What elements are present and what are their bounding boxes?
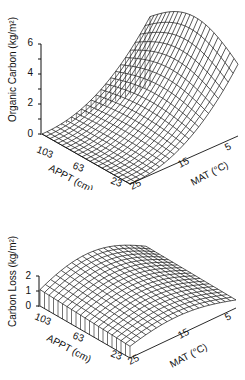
y-tick-label: 5 <box>223 310 233 323</box>
y-tick-label: 5 <box>223 140 233 153</box>
x-tick-label: 103 <box>35 144 55 161</box>
z-axis-label: Organic Carbon (kg/m²) <box>7 17 18 122</box>
carbon-loss-surface <box>40 245 236 358</box>
organic-carbon-plot-svg: 6 4 2 0 Organic Carbon (kg/m²) 103 63 23… <box>0 0 245 190</box>
x-tick-label: 103 <box>33 311 53 328</box>
x-axis-label: APPT (cm) <box>47 162 95 190</box>
z-tick-label: 0 <box>25 300 31 311</box>
x-axis-label: APPT (cm) <box>45 332 93 365</box>
carbon-loss-surface-plot: 2 1 0 Carbon Loss (kg/m²) 103 63 23 APPT… <box>0 190 245 380</box>
y-tick-label: 15 <box>176 326 191 341</box>
organic-carbon-surface <box>42 12 238 184</box>
x-tick-label: 63 <box>71 160 86 175</box>
z-axis-label: Carbon Loss (kg/m²) <box>7 236 18 327</box>
y-tick-label: 15 <box>176 155 191 170</box>
x-tick-label: 23 <box>109 175 124 190</box>
z-tick-label: 6 <box>27 37 33 48</box>
z-tick-label: 2 <box>27 97 33 108</box>
y-axis-label: MAT (°C) <box>189 159 230 188</box>
z-tick-label: 2 <box>25 270 31 281</box>
carbon-loss-plot-svg: 2 1 0 Carbon Loss (kg/m²) 103 63 23 APPT… <box>0 190 245 380</box>
z-tick-label: 1 <box>25 285 31 296</box>
y-axis-label: MAT (°C) <box>168 341 209 370</box>
organic-carbon-surface-plot: 6 4 2 0 Organic Carbon (kg/m²) 103 63 23… <box>0 0 245 190</box>
x-tick-label: 23 <box>109 348 124 363</box>
z-tick-label: 0 <box>27 128 33 139</box>
z-tick-label: 4 <box>27 67 33 78</box>
